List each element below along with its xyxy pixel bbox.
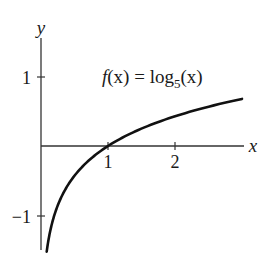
y-tick-label-neg1: −1 bbox=[12, 207, 31, 227]
x-tick-label-1: 1 bbox=[104, 152, 113, 172]
function-suffix: (x) bbox=[180, 66, 202, 88]
y-axis-label: y bbox=[35, 17, 46, 38]
x-tick-label-2: 2 bbox=[171, 152, 180, 172]
y-tick-label-1: 1 bbox=[22, 68, 31, 88]
function-annotation: f(x) = log5(x) bbox=[102, 66, 203, 91]
function-equals: = log bbox=[129, 66, 174, 87]
log-curve bbox=[47, 99, 242, 252]
x-axis-label: x bbox=[248, 135, 258, 156]
log-chart: y x 1 2 1 −1 f(x) = log5(x) bbox=[0, 0, 267, 264]
function-arg: (x) bbox=[107, 66, 129, 88]
